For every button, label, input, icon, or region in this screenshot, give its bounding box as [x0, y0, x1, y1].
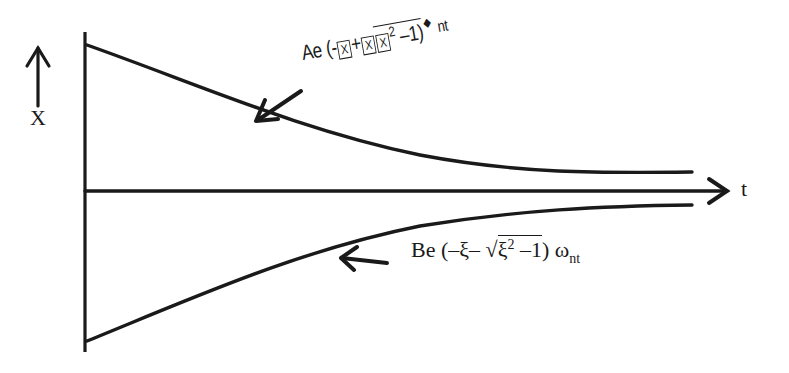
formula-b-radicand: ξ2 –1 — [498, 235, 542, 262]
formula-b-coefficient: Be — [411, 237, 435, 262]
formula-a-minus-one: –1) — [393, 20, 425, 48]
x-direction-arrow-icon — [27, 48, 49, 106]
diagram-canvas — [0, 0, 789, 373]
vertical-axis-label: X — [30, 107, 46, 129]
lower-curve-formula: Be (–ξ– √ξ2 –1) ωnt — [411, 238, 580, 266]
formula-b-close: ) — [542, 237, 549, 262]
lower-pointer-arrow-icon — [341, 247, 387, 270]
formula-b-minus-one: –1 — [514, 237, 542, 262]
formula-b-omega: ω — [555, 237, 569, 262]
formula-b-subscript: nt — [569, 251, 580, 266]
formula-b-xi: ξ — [498, 237, 508, 262]
horizontal-axis — [85, 179, 727, 203]
formula-a-coefficient: Ae — [300, 38, 324, 64]
upper-curve — [87, 45, 692, 172]
formula-b-open: (–ξ– — [441, 237, 480, 262]
formula-a-open: (- — [324, 35, 338, 60]
horizontal-axis-label: t — [741, 178, 747, 200]
sqrt-icon: √ — [486, 237, 498, 262]
formula-a-dot-icon: ◆ — [422, 15, 431, 30]
lower-curve — [87, 205, 692, 341]
